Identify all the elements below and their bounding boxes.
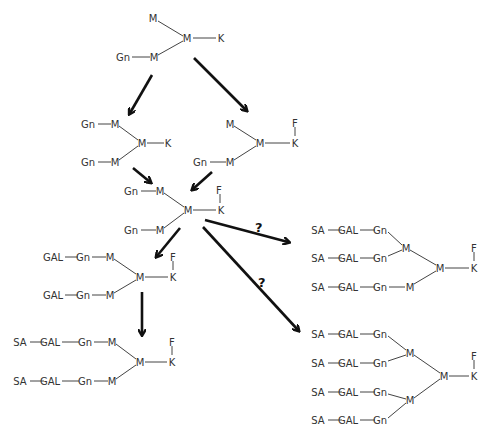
residue-label: Gn [373,225,387,236]
residue-label: Gn [124,186,138,197]
residue-label: M [226,119,235,130]
residue-label: F [471,351,477,362]
residue-label: M [156,225,165,236]
glycan-structure-s8: SAGALGnMSAGALGnMFKSAGALGnMSAGALGn [311,329,477,426]
residue-label: SA [311,329,325,340]
residue-label: M [150,52,159,63]
residue-label: Gn [78,337,92,348]
residue-label: GAL [338,329,359,340]
residue-label: SA [311,358,325,369]
residue-label: M [108,337,117,348]
residue-label: K [471,263,478,274]
residue-label: M [184,205,193,216]
residue-label: Gn [76,252,90,263]
arrow-s4-to-s8 [203,227,298,330]
residue-label: Gn [116,52,130,63]
residue-label: Gn [373,387,387,398]
residue-label: M [256,138,265,149]
glycan-pathway-diagram: ? ? MMKGnMGnMMKGnMMMFKGnMGnMMFKGnMGALGnM… [0,0,494,439]
residue-label: M [406,282,415,293]
arrow-s1-to-s2 [130,75,152,113]
residue-label: GAL [338,253,359,264]
uncertain-marker-2: ? [258,275,266,290]
residue-label: GAL [338,225,359,236]
residue-label: GAL [40,376,61,387]
residue-label: K [170,272,177,283]
residue-label: M [108,376,117,387]
glycan-structure-s7: SAGALGnMSAGALGnMFKSAGALGnM [311,225,477,293]
residue-label: GAL [40,337,61,348]
residue-label: K [165,138,172,149]
residue-label: F [471,243,477,254]
residue-label: F [292,118,298,129]
residue-label: SA [311,415,325,426]
residue-label: K [169,357,176,368]
bond-lines [30,21,474,420]
residue-label: M [436,263,445,274]
residue-label: SA [311,387,325,398]
residue-label: SA [311,282,325,293]
residue-label: Gn [81,157,95,168]
residue-label: Gn [373,358,387,369]
residue-label: GAL [338,358,359,369]
residue-label: M [106,252,115,263]
residue-label: Gn [373,282,387,293]
residue-label: GAL [338,415,359,426]
residue-label: K [471,371,478,382]
arrow-s3-to-s4 [193,172,212,189]
residue-label: Gn [193,157,207,168]
residue-label: F [169,337,175,348]
residue-label: GAL [43,290,64,301]
residue-label: Gn [78,376,92,387]
residue-label: M [111,157,120,168]
residue-label: K [218,33,225,44]
residue-label: SA [13,337,27,348]
residue-label: M [226,157,235,168]
residue-label: M [149,13,158,24]
residue-label: Gn [373,415,387,426]
residue-label: M [402,243,411,254]
residue-label: M [183,33,192,44]
residue-label: F [170,252,176,263]
residue-label: K [218,205,225,216]
residue-label: M [406,348,415,359]
residue-labels: MMKGnMGnMMKGnMMMFKGnMGnMMFKGnMGALGnMMFKG… [13,13,477,426]
residue-label: SA [311,253,325,264]
residue-label: SA [13,376,27,387]
residue-label: GAL [338,387,359,398]
arrow-s2-to-s4 [133,168,150,182]
residue-label: M [136,357,145,368]
residue-label: Gn [76,290,90,301]
residue-label: M [106,290,115,301]
residue-label: F [216,185,222,196]
residue-label: GAL [338,282,359,293]
residue-label: Gn [373,329,387,340]
residue-label: Gn [373,253,387,264]
residue-label: M [138,138,147,149]
residue-label: M [156,186,165,197]
arrow-s1-to-s3 [194,58,246,110]
arrow-s4-to-s7 [205,220,288,242]
residue-label: Gn [81,119,95,130]
residue-label: K [292,138,299,149]
uncertain-marker-1: ? [255,220,263,235]
residue-label: M [440,371,449,382]
residue-label: M [136,272,145,283]
residue-label: SA [311,225,325,236]
residue-label: Gn [124,225,138,236]
residue-label: M [111,119,120,130]
residue-label: GAL [43,252,64,263]
residue-label: M [406,395,415,406]
